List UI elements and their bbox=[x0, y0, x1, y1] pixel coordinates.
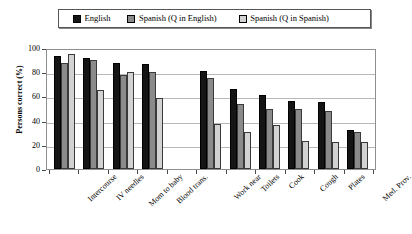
bar-group-mom-to-baby bbox=[109, 50, 138, 169]
bar-english-2 bbox=[113, 63, 120, 169]
bar-group-cough bbox=[284, 50, 313, 169]
bar-english-6 bbox=[230, 89, 237, 169]
bar-english-0 bbox=[54, 56, 61, 169]
bar-spanish-q-in-english-9 bbox=[325, 111, 332, 169]
bar-group-blood-trans bbox=[138, 50, 167, 169]
bar-english-9 bbox=[318, 102, 325, 169]
y-tick-label-40: 40 bbox=[0, 118, 40, 126]
x-tick-label-plates: Plates bbox=[347, 173, 366, 192]
legend-item-english: English bbox=[73, 14, 110, 23]
legend-item-spanish-q-english: Spanish (Q in English) bbox=[127, 14, 216, 23]
x-tick-label-cook: Cook bbox=[288, 173, 306, 191]
bar-spanish-q-in-spanish-6 bbox=[244, 132, 251, 170]
bar-group-cook bbox=[255, 50, 284, 169]
bar-spanish-q-in-english-2 bbox=[120, 75, 127, 169]
legend-label-spanish-q-spanish: Spanish (Q in Spanish) bbox=[250, 14, 329, 23]
y-tick-label-20: 20 bbox=[0, 142, 40, 150]
bar-spanish-q-in-english-0 bbox=[61, 63, 68, 169]
bar-group-intercourse bbox=[50, 50, 79, 169]
bar-group-med-prov bbox=[343, 50, 372, 169]
bar-group-empty bbox=[167, 50, 196, 169]
legend-swatch-english bbox=[73, 15, 81, 23]
bar-spanish-q-in-spanish-7 bbox=[273, 125, 280, 169]
bar-english-7 bbox=[259, 95, 266, 169]
bar-spanish-q-in-english-7 bbox=[266, 109, 273, 170]
legend-swatch-spanish-q-spanish bbox=[239, 15, 247, 23]
bar-spanish-q-in-spanish-8 bbox=[302, 141, 309, 169]
bar-spanish-q-in-english-3 bbox=[149, 72, 156, 169]
legend-item-spanish-q-spanish: Spanish (Q in Spanish) bbox=[239, 14, 329, 23]
legend-swatch-spanish-q-english bbox=[127, 15, 135, 23]
bar-spanish-q-in-spanish-1 bbox=[97, 90, 104, 169]
x-tick-label-toilets: Toilets bbox=[260, 173, 281, 194]
x-axis-labels: IntercourseIV needlesMom to babyBlood tr… bbox=[46, 171, 376, 233]
y-tick-label-100: 100 bbox=[0, 45, 40, 53]
y-axis-ticks: 020406080100 bbox=[0, 44, 46, 176]
bar-spanish-q-in-english-6 bbox=[237, 104, 244, 169]
bar-spanish-q-in-spanish-0 bbox=[68, 54, 75, 169]
plot-area bbox=[46, 49, 376, 170]
bar-spanish-q-in-spanish-2 bbox=[127, 72, 134, 169]
legend-label-english: English bbox=[85, 14, 111, 23]
bar-spanish-q-in-english-10 bbox=[354, 132, 361, 170]
bar-groups bbox=[47, 50, 375, 169]
y-tick-label-0: 0 bbox=[0, 166, 40, 174]
x-tick-label-iv-needles: IV needles bbox=[116, 173, 147, 202]
x-tick-label-cough: Cough bbox=[318, 173, 339, 193]
legend-label-spanish-q-english: Spanish (Q in English) bbox=[139, 14, 217, 23]
bar-group-iv-needles bbox=[79, 50, 108, 169]
x-tick-label-intercourse: Intercourse bbox=[87, 173, 119, 203]
bar-english-1 bbox=[83, 58, 90, 169]
bar-group-work-near bbox=[196, 50, 225, 169]
bar-english-5 bbox=[200, 71, 207, 169]
bar-spanish-q-in-spanish-3 bbox=[156, 98, 163, 169]
x-tick-label-med-prov: Med. Prov. bbox=[381, 173, 412, 203]
bar-group-plates bbox=[313, 50, 342, 169]
bar-spanish-q-in-spanish-10 bbox=[361, 142, 368, 169]
bar-english-10 bbox=[347, 130, 354, 169]
y-tick-label-60: 60 bbox=[0, 93, 40, 101]
bar-english-3 bbox=[142, 64, 149, 169]
bar-spanish-q-in-english-1 bbox=[90, 60, 97, 169]
chart-legend: English Spanish (Q in English) Spanish (… bbox=[58, 9, 371, 28]
bar-spanish-q-in-spanish-9 bbox=[332, 142, 339, 169]
bar-spanish-q-in-english-5 bbox=[207, 78, 214, 169]
bar-english-8 bbox=[288, 101, 295, 169]
bar-group-toilets bbox=[226, 50, 255, 169]
bar-spanish-q-in-english-8 bbox=[295, 109, 302, 170]
bar-spanish-q-in-spanish-5 bbox=[214, 124, 221, 169]
y-tick-label-80: 80 bbox=[0, 69, 40, 77]
